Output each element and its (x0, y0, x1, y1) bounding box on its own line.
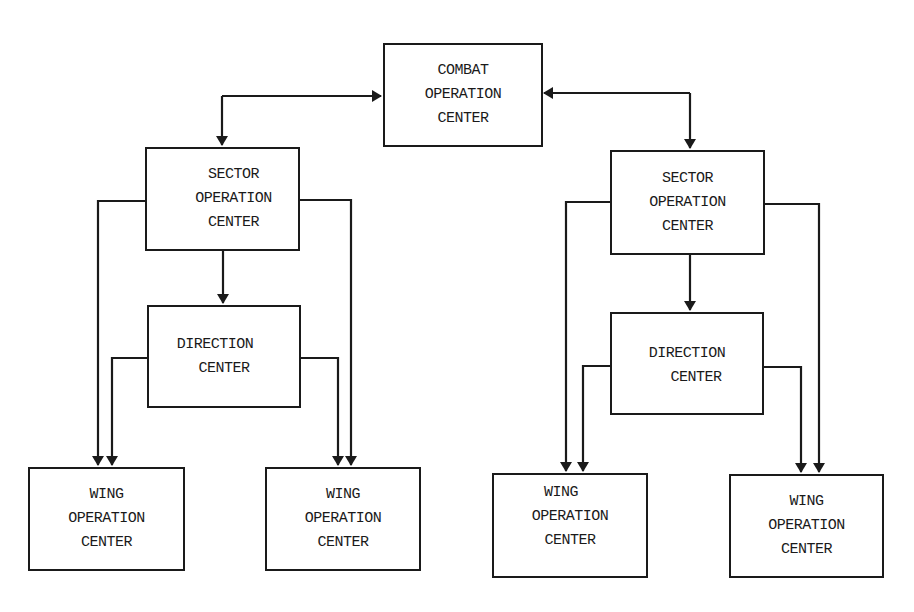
node-label-line: DIRECTION (649, 342, 726, 366)
node-label-line: OPERATION (649, 191, 726, 215)
node-direction-center-right: DIRECTION CENTER (610, 312, 764, 415)
node-label-line: WING (326, 483, 360, 507)
node-wing-operation-center-1: WING OPERATION CENTER (28, 467, 185, 571)
edge-sector-left-to-wing-1 (98, 201, 145, 465)
edge-sector-left-to-wing-2 (299, 200, 351, 465)
node-label-line: WING (89, 483, 123, 507)
node-label-line: WING (789, 490, 823, 514)
node-label-line: OPERATION (68, 507, 145, 531)
node-label-line: DIRECTION (177, 333, 254, 357)
edge-direction-right-to-wing-3 (583, 366, 610, 471)
node-label-line: WING (544, 481, 578, 505)
node-combat-operation-center: COMBAT OPERATION CENTER (383, 43, 543, 147)
node-label-line: OPERATION (532, 505, 609, 529)
diagram-canvas: COMBAT OPERATION CENTER SECTOR OPERATION… (0, 0, 914, 612)
node-sector-operation-center-right: SECTOR OPERATION CENTER (610, 150, 765, 255)
node-label-line: CENTER (208, 211, 259, 235)
edge-direction-left-to-wing-2 (300, 358, 338, 465)
node-label-line: CENTER (81, 531, 132, 555)
edge-direction-right-to-wing-4 (763, 367, 801, 472)
node-label-line: CENTER (317, 531, 368, 555)
node-label-line: CENTER (781, 538, 832, 562)
node-label-line: CENTER (662, 215, 713, 239)
edge-direction-left-to-wing-1 (112, 358, 147, 465)
node-label-line: CENTER (437, 107, 488, 131)
node-label-line: CENTER (544, 529, 595, 553)
edge-sector-right-to-wing-3 (566, 202, 610, 471)
node-label-line: SECTOR (208, 163, 259, 187)
node-wing-operation-center-3: WING OPERATION CENTER (492, 473, 648, 578)
node-label-line: SECTOR (662, 167, 713, 191)
node-label-line: CENTER (198, 357, 249, 381)
node-label-line: OPERATION (425, 83, 502, 107)
node-label-line: CENTER (670, 366, 721, 390)
node-label-line: OPERATION (305, 507, 382, 531)
edge-sector-right-to-wing-4 (764, 204, 819, 472)
node-wing-operation-center-2: WING OPERATION CENTER (265, 467, 421, 571)
node-label-line: COMBAT (437, 59, 488, 83)
node-wing-operation-center-4: WING OPERATION CENTER (729, 474, 884, 578)
node-sector-operation-center-left: SECTOR OPERATION CENTER (145, 147, 300, 251)
node-label-line: OPERATION (195, 187, 272, 211)
node-label-line: OPERATION (768, 514, 845, 538)
node-direction-center-left: DIRECTION CENTER (147, 305, 301, 408)
